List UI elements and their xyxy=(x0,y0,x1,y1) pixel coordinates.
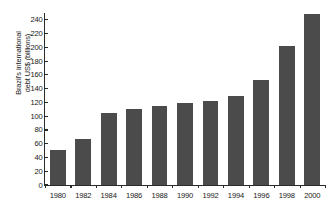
x-axis-tick-mark xyxy=(223,185,224,188)
x-axis-tick-label: 1998 xyxy=(279,191,295,200)
bar xyxy=(75,139,91,185)
x-axis-tick-label: 1992 xyxy=(202,191,218,200)
x-axis-tick-mark xyxy=(70,185,71,188)
x-axis-tick-mark xyxy=(274,185,275,188)
x-axis-tick-label: 1990 xyxy=(177,191,193,200)
bar-chart-figure: Brazil's international debt US$ (billion… xyxy=(0,0,331,213)
x-axis-tick-label: 1986 xyxy=(126,191,142,200)
x-axis-tick-mark xyxy=(45,185,46,188)
y-axis-tick-label: 40 xyxy=(34,153,45,162)
x-axis-tick-label: 1980 xyxy=(50,191,66,200)
y-axis-tick-label: 240 xyxy=(30,15,45,24)
y-axis-tick-label: 220 xyxy=(30,29,45,38)
x-axis-tick-mark xyxy=(96,185,97,188)
bar xyxy=(101,113,117,185)
y-axis-tick-label: 120 xyxy=(30,98,45,107)
y-axis-tick-label: 80 xyxy=(34,125,45,134)
bar xyxy=(152,106,168,185)
x-axis-tick-label: 1996 xyxy=(253,191,269,200)
x-axis-tick-label: 1982 xyxy=(75,191,91,200)
x-axis-tick-label: 1984 xyxy=(101,191,117,200)
x-axis-tick-mark xyxy=(198,185,199,188)
bars-layer xyxy=(45,13,325,185)
x-axis-tick-label: 2000 xyxy=(304,191,320,200)
y-axis-tick-label: 60 xyxy=(34,139,45,148)
bar xyxy=(304,14,320,185)
x-axis-tick-mark xyxy=(300,185,301,188)
y-axis-tick-label: 180 xyxy=(30,56,45,65)
bar xyxy=(228,96,244,185)
y-axis-tick-label: 200 xyxy=(30,43,45,52)
x-axis-tick-label: 1994 xyxy=(228,191,244,200)
x-axis-tick-label: 1988 xyxy=(151,191,167,200)
x-axis-tick-mark xyxy=(121,185,122,188)
y-axis-tick-label: 160 xyxy=(30,70,45,79)
bar xyxy=(279,46,295,185)
x-axis-tick-mark xyxy=(172,185,173,188)
bar xyxy=(203,101,219,185)
x-axis-tick-mark xyxy=(325,185,326,188)
bar xyxy=(50,150,66,185)
y-axis-tick-label: 20 xyxy=(34,167,45,176)
plot-area: 020406080100120140160180200220240 198019… xyxy=(44,13,325,186)
y-axis-tick-label: 100 xyxy=(30,112,45,121)
y-axis-tick-label: 140 xyxy=(30,84,45,93)
bar xyxy=(253,80,269,185)
bar xyxy=(126,109,142,185)
x-axis-tick-mark xyxy=(249,185,250,188)
x-axis-tick-mark xyxy=(147,185,148,188)
bar xyxy=(177,103,193,185)
